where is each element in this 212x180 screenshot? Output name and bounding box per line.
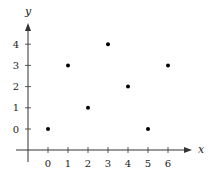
x-tick-label: 6 [165, 158, 171, 169]
x-axis-label: x [198, 143, 205, 156]
y-axis-label: y [24, 5, 32, 18]
y-tick-label: 1 [13, 102, 19, 113]
x-tick-label: 4 [125, 158, 131, 169]
data-points [46, 42, 170, 131]
data-point [46, 127, 50, 131]
data-point [86, 106, 90, 110]
scatter-chart: 012345601234 x y [0, 0, 212, 180]
y-tick-label: 0 [13, 124, 19, 135]
y-tick-label: 2 [13, 81, 19, 92]
data-point [66, 63, 70, 67]
y-axis-arrow-icon [25, 23, 31, 31]
x-tick-label: 0 [45, 158, 51, 169]
ticks: 012345601234 [13, 39, 172, 169]
y-tick-label: 3 [13, 60, 19, 71]
data-point [146, 127, 150, 131]
x-tick-label: 3 [105, 158, 111, 169]
x-tick-label: 1 [65, 158, 71, 169]
x-tick-label: 5 [145, 158, 151, 169]
data-point [166, 63, 170, 67]
y-tick-label: 4 [13, 39, 19, 50]
data-point [106, 42, 110, 46]
x-tick-label: 2 [85, 158, 91, 169]
axes [16, 23, 192, 162]
x-axis-arrow-icon [184, 147, 192, 153]
data-point [126, 85, 130, 89]
